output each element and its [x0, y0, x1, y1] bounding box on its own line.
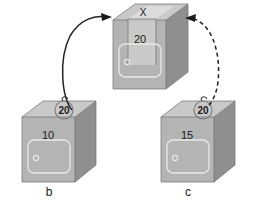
arrow-left-to-top-head	[101, 13, 112, 21]
source-box-b-caption: b	[46, 185, 53, 199]
arrow-right-to-top-path	[191, 18, 219, 105]
source-box-b: 10 20 b	[22, 97, 96, 199]
source-box-c-caption: c	[185, 185, 191, 199]
source-box-c-badge-value: 20	[197, 105, 209, 116]
diagram-canvas: X 20 10 20 b	[0, 0, 253, 206]
result-box: X 20	[113, 4, 188, 89]
arrow-left-to-top-path	[63, 17, 106, 110]
source-box-c-badge-tail	[201, 97, 207, 101]
source-box-c-front-value: 15	[181, 129, 193, 141]
source-box-c: 15 20 c	[161, 97, 235, 199]
source-box-b-front-value: 10	[42, 129, 54, 141]
result-box-front-value: 20	[134, 33, 146, 45]
arrow-right-to-top	[185, 14, 219, 105]
result-box-top-label: X	[140, 7, 147, 18]
source-box-b-badge-value: 20	[58, 105, 70, 116]
arrow-left-to-top	[63, 13, 112, 110]
